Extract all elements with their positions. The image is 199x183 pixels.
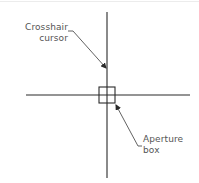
aperture-box-label: Aperture box	[143, 134, 197, 156]
aperture-label-line1: Aperture	[143, 134, 197, 145]
aperture-label-line2: box	[143, 145, 197, 156]
diagram-canvas: Crosshair cursor Aperture box	[0, 0, 199, 183]
crosshair-label-line1: Crosshair	[14, 22, 68, 33]
aperture-leader-arrow	[116, 105, 142, 146]
crosshair-label-line2: cursor	[14, 33, 68, 44]
crosshair-leader-arrow	[68, 31, 106, 68]
crosshair-cursor-label: Crosshair cursor	[14, 22, 68, 44]
